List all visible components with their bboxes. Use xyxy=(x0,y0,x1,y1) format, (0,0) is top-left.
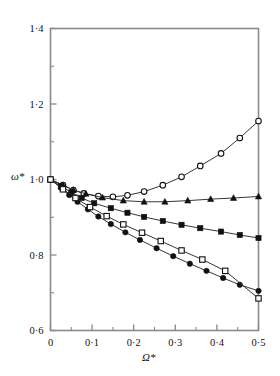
data-series-group xyxy=(47,118,261,301)
x-tick-label: 0·2 xyxy=(127,337,141,348)
figure: 00·10·20·30·40·50·60·81·01·21·4 ω* Ω* xyxy=(0,0,280,376)
x-tick-label: 0·1 xyxy=(85,337,99,348)
y-tick-label: 1·2 xyxy=(30,99,44,110)
axis-ticks xyxy=(51,29,259,331)
x-tick-label: 0·5 xyxy=(252,337,266,348)
x-tick-label: 0·4 xyxy=(210,337,225,348)
series-filled-circle xyxy=(48,177,261,294)
series-open-circle xyxy=(48,118,262,199)
y-axis-label: ω* xyxy=(11,170,24,182)
x-tick-label: 0 xyxy=(48,337,53,348)
y-tick-label: 0·6 xyxy=(30,325,44,336)
plot-frame xyxy=(51,29,259,331)
x-axis-label: Ω* xyxy=(142,351,155,363)
x-tick-label: 0·3 xyxy=(168,337,182,348)
series-filled-square xyxy=(48,177,261,241)
y-tick-label: 1·4 xyxy=(30,23,45,34)
chart-plot-area: 00·10·20·30·40·50·60·81·01·21·4 xyxy=(0,0,280,376)
y-tick-label: 1·0 xyxy=(30,174,44,185)
y-tick-label: 0·8 xyxy=(30,250,44,261)
